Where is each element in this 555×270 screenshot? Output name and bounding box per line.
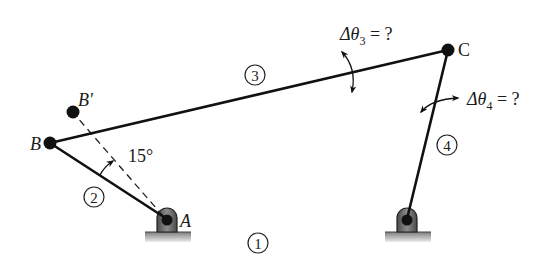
delta-theta3-symbol: Δθ [339, 24, 360, 44]
link-number-3: 3 [245, 65, 265, 85]
delta-theta4-label: Δθ4 = ? [466, 89, 520, 113]
input-angle-label: 15° [128, 146, 153, 166]
label-b-prime: B′ [78, 90, 94, 110]
svg-text:2: 2 [90, 190, 98, 206]
svg-text:1: 1 [254, 236, 262, 252]
joint-b [44, 137, 57, 150]
pin-d [402, 215, 413, 226]
ground-hatch-d [385, 232, 431, 242]
label-a: A [179, 211, 192, 231]
link-number-2: 2 [84, 187, 104, 207]
delta-theta4-rhs: = ? [492, 89, 519, 109]
link-4 [407, 50, 448, 219]
pin-a [162, 215, 173, 226]
link-3 [50, 50, 448, 143]
label-b: B [30, 134, 41, 154]
label-c: C [458, 40, 470, 60]
ground-hatch-a [145, 232, 191, 242]
delta-theta4-symbol: Δθ [466, 89, 487, 109]
joint-c [442, 44, 455, 57]
link-number-1: 1 [248, 233, 268, 253]
four-bar-linkage-diagram: B B′ A C 15° Δθ3 = ? Δθ4 = ? 2 3 4 1 [0, 0, 555, 270]
link-number-4: 4 [437, 135, 457, 155]
delta-theta3-rhs: = ? [365, 24, 392, 44]
delta-theta3-label: Δθ3 = ? [339, 24, 393, 48]
svg-text:3: 3 [251, 68, 259, 84]
delta-theta4-arc-icon [421, 98, 458, 112]
input-angle-arc-icon [100, 161, 113, 175]
svg-text:4: 4 [443, 138, 451, 154]
